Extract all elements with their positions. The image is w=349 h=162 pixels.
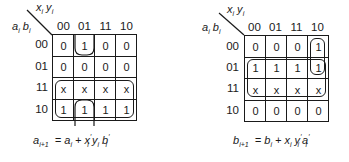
- cell-r0-c0: 0: [245, 36, 266, 58]
- row-label: 01: [219, 61, 239, 73]
- cell-r3-c3: 0: [308, 101, 329, 123]
- column-variable-label: xi yi: [227, 3, 244, 17]
- cell-r3-c0: 0: [245, 101, 266, 123]
- column-label: 00: [244, 21, 265, 33]
- column-label: 11: [286, 21, 307, 33]
- grouping-loop-column-10: [310, 38, 325, 75]
- row-label: 10: [219, 104, 239, 116]
- row-label: 11: [219, 82, 239, 94]
- cell-r0-c1: 0: [266, 36, 287, 58]
- cell-r3-c1: 0: [266, 101, 287, 123]
- cell-r3-c2: 0: [287, 101, 308, 123]
- formula-b: bi+1 = bi + xi y′i a′i: [233, 133, 307, 148]
- kmap-b: xi yi ai bi 00 01 11 10 00 01 11 10 0 0 …: [175, 0, 349, 162]
- formula-a: ai+1 = ai + x′i yi b′i: [33, 133, 107, 148]
- kmap-a: xi yi ai bi 00 01 11 10 00 01 11 10 0 1 …: [0, 0, 175, 162]
- row-variable-label: ai bi: [202, 21, 220, 35]
- cell-r0-c2: 0: [287, 36, 308, 58]
- row-label: 00: [219, 40, 239, 52]
- column-label: 01: [265, 21, 286, 33]
- column-label: 10: [307, 21, 328, 33]
